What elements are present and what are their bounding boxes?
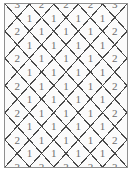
lattice-cell-value: 2	[112, 134, 118, 145]
lattice-cell-value: 2	[14, 26, 20, 37]
figure-container: 3222311112111211112111211112111211112111…	[0, 0, 132, 172]
lattice-cell-value: 1	[51, 39, 57, 50]
lattice-cell-value: 2	[112, 107, 118, 118]
lattice-cell-value: 3	[112, 162, 118, 169]
lattice-cell-value: 1	[63, 80, 69, 91]
lattice-cell-value: 2	[112, 80, 118, 91]
lattice-cell-value: 1	[100, 12, 106, 23]
lattice-cell-value: 1	[27, 148, 33, 159]
lattice-cell-value: 2	[14, 80, 20, 91]
lattice-cell-value: 1	[75, 12, 81, 23]
lattice-cell-value: 1	[75, 94, 81, 105]
lattice-cell-value: 1	[27, 39, 33, 50]
lattice-cell-value: 1	[51, 12, 57, 23]
lattice-cell-value: 1	[63, 107, 69, 118]
lattice-cell-value: 1	[88, 80, 94, 91]
lattice-cell-value: 1	[39, 26, 45, 37]
lattice-cell-value: 1	[88, 134, 94, 145]
lattice-cell-value: 2	[112, 26, 118, 37]
lattice-cell-value: 1	[27, 12, 33, 23]
lattice-cell-value: 1	[39, 107, 45, 118]
lattice-cell-value: 1	[39, 53, 45, 64]
lattice-cell-value: 2	[14, 53, 20, 64]
lattice-cell-value: 1	[100, 121, 106, 132]
lattice-cell-value: 2	[14, 107, 20, 118]
lattice-cell-value: 2	[112, 53, 118, 64]
lattice-cell-value: 1	[39, 80, 45, 91]
lattice-cell-value: 1	[100, 39, 106, 50]
lattice-cell-value: 1	[63, 134, 69, 145]
lattice-cell-value: 2	[14, 134, 20, 145]
lattice-cell-value: 1	[100, 148, 106, 159]
lattice-cell-value: 1	[88, 26, 94, 37]
lattice-cell-value: 1	[75, 121, 81, 132]
lattice-cell-value: 2	[88, 162, 94, 169]
lattice-cell-value: 2	[39, 162, 45, 169]
lattice-cell-value: 1	[27, 94, 33, 105]
lattice-cell-value: 1	[27, 121, 33, 132]
lattice-cell-value: 2	[63, 3, 69, 10]
lattice-cell-value: 1	[63, 53, 69, 64]
lattice-cell-value: 2	[88, 3, 94, 10]
lattice-cell-value: 3	[14, 3, 20, 10]
lattice-cell-value: 1	[100, 66, 106, 77]
lattice-cell-value: 1	[51, 121, 57, 132]
lattice-cell-value: 1	[88, 53, 94, 64]
lattice-cell-value: 1	[51, 94, 57, 105]
lattice-cell-value: 1	[39, 134, 45, 145]
lattice-cell-value: 1	[75, 39, 81, 50]
lattice-cell-value: 1	[27, 66, 33, 77]
lattice-cell-value: 1	[75, 66, 81, 77]
lattice-cell-value: 1	[100, 94, 106, 105]
lattice-cell-value: 2	[63, 162, 69, 169]
lattice-cell-value: 1	[51, 148, 57, 159]
lattice-cell-value: 2	[39, 3, 45, 10]
lattice-cell-value: 3	[14, 162, 20, 169]
lattice-cell-value: 1	[63, 26, 69, 37]
lattice-cell-value: 1	[75, 148, 81, 159]
lattice-frame: 3222311112111211112111211112111211112111…	[4, 3, 128, 168]
lattice-cell-value: 1	[51, 66, 57, 77]
lattice-cell-value: 1	[88, 107, 94, 118]
cell-label-layer: 3222311112111211112111211112111211112111…	[5, 4, 127, 167]
lattice-cell-value: 3	[112, 3, 118, 10]
